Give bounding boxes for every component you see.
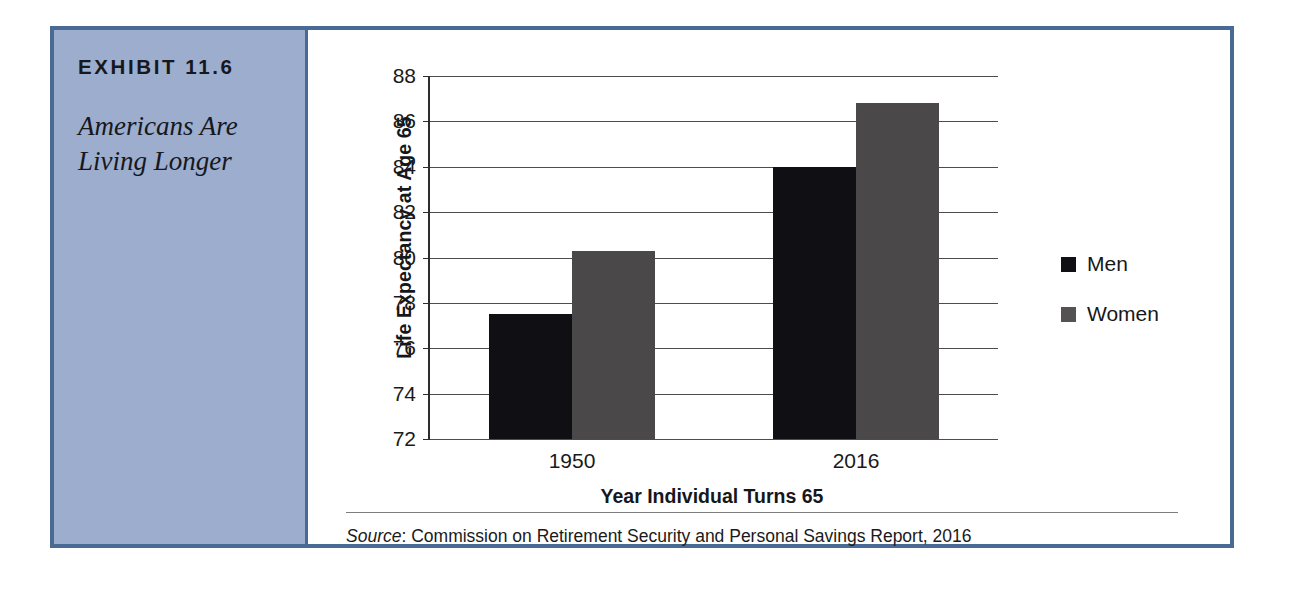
y-axis-tick (423, 76, 430, 77)
gridline (430, 76, 998, 77)
y-axis-tick (423, 303, 430, 304)
y-axis-tick-label: 74 (393, 382, 416, 406)
y-axis-tick (423, 439, 430, 440)
source-label: Source (346, 526, 401, 546)
exhibit-title-line-1: Americans Are (78, 109, 268, 145)
bar-men-1950 (489, 314, 572, 439)
exhibit-frame: EXHIBIT 11.6 Americans Are Living Longer… (50, 26, 1234, 548)
source-divider (346, 512, 1178, 513)
source-text: : Commission on Retirement Security and … (401, 526, 971, 546)
x-axis-tick-label: 2016 (833, 449, 880, 473)
y-axis-tick (423, 212, 430, 213)
plot-area: 88868482807876747219502016 (428, 76, 998, 439)
y-axis-tick-label: 84 (393, 155, 416, 179)
y-axis-tick-label: 76 (393, 336, 416, 360)
bar-women-2016 (856, 103, 939, 439)
y-axis-tick-label: 72 (393, 427, 416, 451)
exhibit-title: Americans Are Living Longer (78, 109, 268, 180)
y-axis-tick (423, 394, 430, 395)
y-axis-tick-label: 78 (393, 291, 416, 315)
chart-legend: Men Women (1061, 252, 1159, 326)
bar-women-1950 (572, 251, 655, 439)
y-axis-tick-label: 82 (393, 200, 416, 224)
y-axis-tick-label: 88 (393, 64, 416, 88)
bar-men-2016 (773, 167, 856, 439)
legend-swatch-women-icon (1061, 307, 1076, 322)
y-axis-tick-label: 80 (393, 246, 416, 270)
y-axis-tick (423, 167, 430, 168)
y-axis-tick (423, 348, 430, 349)
y-axis-tick (423, 121, 430, 122)
gridline (430, 439, 998, 440)
x-axis-tick-label: 1950 (549, 449, 596, 473)
legend-label-men: Men (1087, 252, 1128, 276)
exhibit-title-line-2: Living Longer (78, 144, 268, 180)
x-axis-title: Year Individual Turns 65 (428, 485, 996, 508)
legend-swatch-men-icon (1061, 257, 1076, 272)
bar-chart: Life Expectancy at Age 65 88868482807876… (308, 30, 1228, 500)
exhibit-body: Life Expectancy at Age 65 88868482807876… (308, 30, 1230, 544)
legend-entry-men: Men (1061, 252, 1159, 276)
legend-label-women: Women (1087, 302, 1159, 326)
legend-entry-women: Women (1061, 302, 1159, 326)
exhibit-number: EXHIBIT 11.6 (78, 56, 305, 79)
exhibit-sidebar: EXHIBIT 11.6 Americans Are Living Longer (54, 30, 308, 544)
y-axis-tick (423, 258, 430, 259)
y-axis-tick-label: 86 (393, 109, 416, 133)
source-note: Source: Commission on Retirement Securit… (346, 526, 971, 547)
